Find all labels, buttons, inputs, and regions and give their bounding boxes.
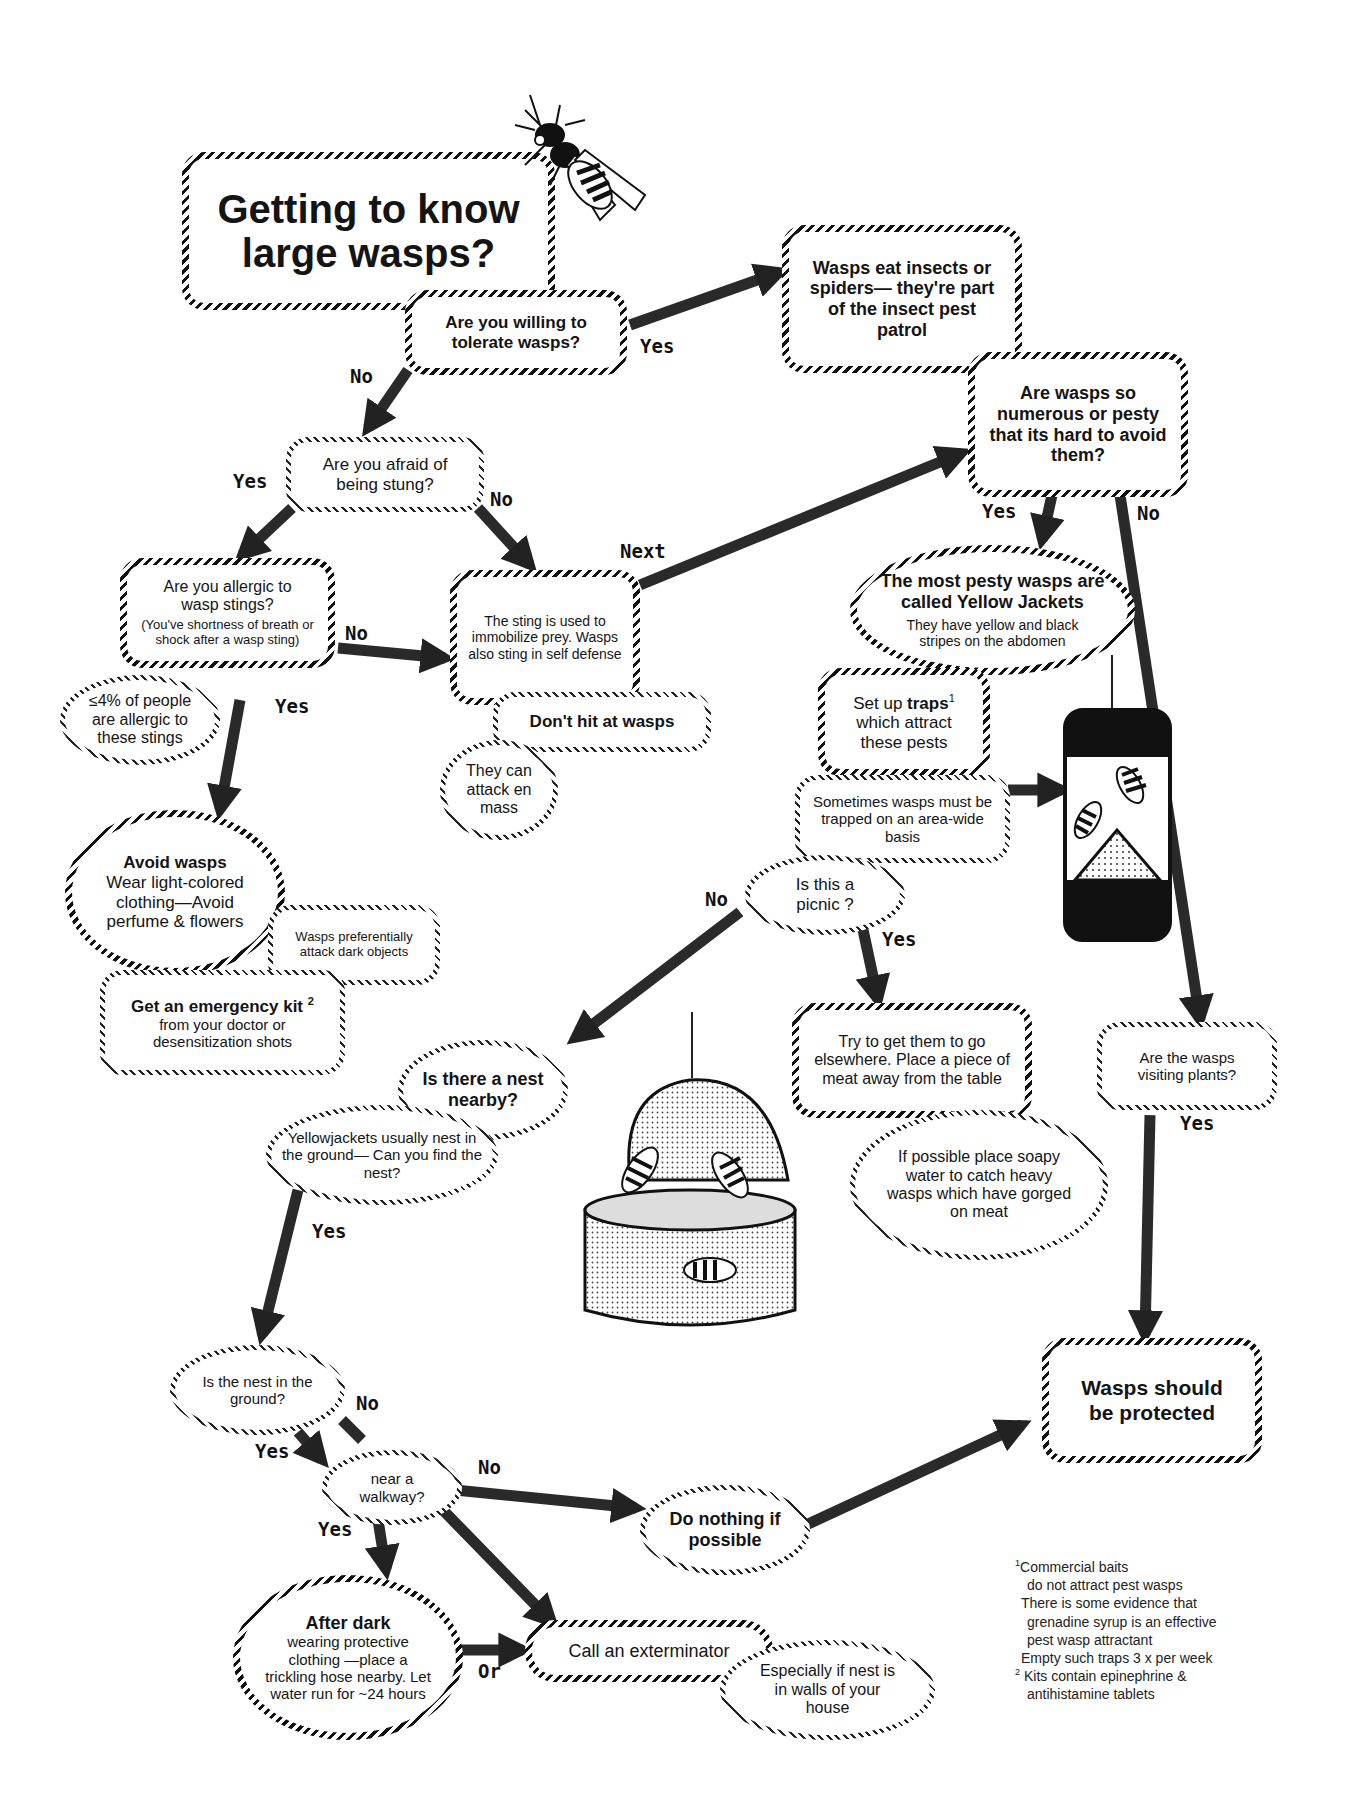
label-afraid-yes: Yes — [233, 470, 267, 492]
question-in-ground: Is the nest in the ground? — [170, 1345, 345, 1435]
flowchart-canvas: Getting to know large wasps? Are you wil… — [0, 0, 1351, 1819]
question-numerous: Are wasps so numerous or pesty that its … — [968, 352, 1188, 497]
meat-bowl-with-wasps — [570, 1070, 800, 1330]
advice-avoid-wasps: Avoid wasps Wear light-colored clothing—… — [65, 810, 285, 975]
footnote-2: 2 Kits contain epinephrine & — [1015, 1667, 1295, 1685]
label-ground-no: No — [356, 1392, 379, 1414]
advice-dont-hit: Don't hit at wasps — [493, 692, 711, 752]
label-tolerate-no: No — [350, 365, 373, 387]
arrow-tolerate-yes — [630, 272, 780, 325]
advice-set-up-traps: Set up traps1 which attract these pests — [818, 668, 990, 776]
label-allergic-no: No — [345, 622, 368, 644]
label-walkway-yes: Yes — [318, 1518, 352, 1540]
label-numerous-no: No — [1137, 502, 1160, 524]
note-allergic-percent: ≤4% of people are allergic to these stin… — [60, 675, 220, 765]
arrow-picnic-yes — [862, 925, 878, 1000]
arrow-afraid-yes — [242, 508, 292, 555]
info-yellow-jackets: The most pesty wasps are called Yellow J… — [850, 545, 1135, 675]
info-eat-insects: Wasps eat insects or spiders— they're pa… — [782, 225, 1022, 373]
arrow-picnic-no — [575, 912, 740, 1038]
advice-emergency-kit: Get an emergency kit 2 from your doctor … — [100, 970, 345, 1075]
label-ground-yes: Yes — [255, 1440, 289, 1462]
label-tolerate-yes: Yes — [640, 335, 674, 357]
advice-go-elsewhere: Try to get them to go elsewhere. Place a… — [792, 1003, 1032, 1118]
arrow-numerous-yes — [1042, 495, 1052, 540]
arrow-tolerate-no — [368, 370, 408, 428]
arrow-afraid-no — [478, 508, 530, 565]
outcome-wasps-protected: Wasps should be protected — [1042, 1338, 1262, 1463]
label-allergic-yes: Yes — [275, 695, 309, 717]
question-picnic: Is this a picnic ? — [745, 855, 905, 935]
arrow-allergic-yes — [220, 700, 240, 810]
arrow-walkway-no — [455, 1490, 636, 1508]
arrow-donothing-protected — [806, 1425, 1022, 1525]
footnotes: 1Commercial baits do not attract pest wa… — [1015, 1558, 1295, 1704]
arrow-find-yes — [262, 1190, 298, 1335]
question-visiting-plants: Are the wasps visiting plants? — [1097, 1022, 1277, 1110]
note-nest-in-walls: Especially if nest is in walls of your h… — [720, 1640, 935, 1740]
arrow-plants-yes — [1145, 1115, 1150, 1335]
label-find-yes: Yes — [312, 1220, 346, 1242]
arrow-ground-yes — [298, 1432, 322, 1460]
advice-soapy-water: If possible place soapy water to catch h… — [850, 1110, 1108, 1260]
outcome-do-nothing: Do nothing if possible — [640, 1485, 810, 1575]
label-afraid-no: No — [490, 488, 513, 510]
footnote-1: 1Commercial baits — [1015, 1558, 1295, 1576]
arrow-allergic-no — [338, 648, 445, 658]
question-tolerate: Are you willing to tolerate wasps? — [405, 290, 627, 375]
arrow-walkway-exterminator — [438, 1505, 552, 1622]
label-plants-yes: Yes — [1180, 1112, 1214, 1134]
page-title: Getting to know large wasps? — [189, 187, 548, 275]
note-area-wide: Sometimes wasps must be trapped on an ar… — [795, 775, 1010, 863]
wasp-trap — [1060, 705, 1175, 945]
arrow-ground-no — [342, 1420, 362, 1440]
question-find-nest: Yellowjackets usually nest in the ground… — [266, 1105, 498, 1205]
title-box: Getting to know large wasps? — [182, 152, 555, 310]
advice-after-dark: After dark wearing protective clothing —… — [233, 1575, 463, 1740]
label-next: Next — [620, 540, 666, 562]
note-attack-en-mass: They can attack en mass — [440, 740, 558, 840]
label-numerous-yes: Yes — [982, 500, 1016, 522]
arrow-walkway-yes — [378, 1520, 386, 1570]
label-picnic-no: No — [705, 888, 728, 910]
question-allergic: Are you allergic to wasp stings? (You've… — [120, 558, 335, 668]
label-picnic-yes: Yes — [882, 928, 916, 950]
question-near-walkway: near a walkway? — [322, 1450, 462, 1525]
label-walkway-no: No — [478, 1456, 501, 1478]
info-sting-use: The sting is used to immobilize prey. Wa… — [450, 570, 640, 705]
label-or: Or — [478, 1660, 501, 1682]
wasp-icon — [505, 85, 650, 235]
question-afraid: Are you afraid of being stung? — [286, 437, 484, 512]
